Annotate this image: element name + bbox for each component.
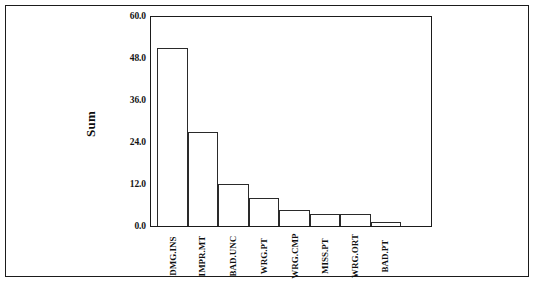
x-tick-label-text: MISS.PT bbox=[320, 238, 330, 274]
bar bbox=[188, 132, 219, 226]
y-tick-label: 12.0 bbox=[106, 179, 146, 189]
y-axis-title-label: Sum bbox=[83, 111, 99, 137]
x-tick-label: DMG.INS bbox=[157, 229, 188, 287]
y-tick-label: 60.0 bbox=[106, 11, 146, 21]
x-tick-label-text: DMG.INS bbox=[167, 236, 177, 275]
bar bbox=[249, 198, 280, 226]
bar bbox=[371, 222, 402, 226]
x-axis-tick-labels: DMG.INSIMPR.MTBAD.UNCWRG.PTWRG.CMPMISS.P… bbox=[151, 229, 431, 287]
chart-page: Sum 60.0 48.0 36.0 24.0 12.0 0.0 DMG.INS… bbox=[0, 0, 538, 290]
y-tick-label: 48.0 bbox=[106, 53, 146, 63]
x-tick-label: BAD.PT bbox=[371, 229, 402, 287]
bar-series bbox=[151, 17, 431, 226]
x-tick-label: BAD.UNC bbox=[218, 229, 249, 287]
pareto-bar-chart: Sum 60.0 48.0 36.0 24.0 12.0 0.0 DMG.INS… bbox=[0, 0, 538, 290]
x-tick-label-text: IMPR.MT bbox=[198, 236, 208, 277]
y-tick-label: 0.0 bbox=[106, 221, 146, 231]
x-tick-label-text: BAD.UNC bbox=[228, 236, 238, 277]
x-tick-label: WRG.ORT bbox=[340, 229, 371, 287]
x-tick-label-text: WRG.ORT bbox=[350, 234, 360, 278]
x-tick-label: IMPR.MT bbox=[188, 229, 219, 287]
y-tick-label: 24.0 bbox=[106, 137, 146, 147]
x-tick-label: WRG.PT bbox=[249, 229, 280, 287]
bar bbox=[218, 184, 249, 226]
bar bbox=[340, 214, 371, 226]
y-tick-label: 36.0 bbox=[106, 95, 146, 105]
x-tick-label-text: WRG.PT bbox=[259, 238, 269, 274]
x-tick-label: MISS.PT bbox=[310, 229, 341, 287]
x-tick-label: WRG.CMP bbox=[279, 229, 310, 287]
y-axis-tick-labels: 60.0 48.0 36.0 24.0 12.0 0.0 bbox=[103, 0, 146, 290]
bar bbox=[157, 48, 188, 226]
x-tick-label-text: WRG.CMP bbox=[289, 233, 299, 278]
x-tick-label-text: BAD.PT bbox=[381, 240, 391, 273]
bar bbox=[310, 214, 341, 226]
bar bbox=[279, 210, 310, 226]
